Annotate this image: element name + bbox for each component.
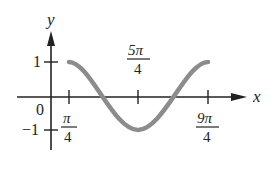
y-tick-label-1: 1 — [33, 53, 41, 70]
x-tick-label-5pi-over-4: 5π 4 — [127, 42, 150, 77]
svg-text:4: 4 — [64, 129, 72, 145]
y-tick-label-neg1: −1 — [22, 121, 39, 138]
svg-text:5π: 5π — [128, 42, 144, 58]
y-axis-label: y — [45, 10, 55, 29]
x-tick-label-9pi-over-4: 9π 4 — [196, 110, 219, 145]
svg-text:π: π — [63, 110, 71, 126]
svg-text:9π: 9π — [197, 110, 213, 126]
svg-text:4: 4 — [134, 61, 142, 77]
x-axis-arrow-icon — [231, 93, 247, 101]
x-tick-label-pi-over-4: π 4 — [61, 110, 77, 145]
origin-label: 0 — [36, 101, 44, 118]
y-axis-arrow-icon — [47, 31, 55, 46]
cosine-graph: y x 0 1 −1 π 4 5π 4 9π 4 — [0, 0, 274, 179]
x-axis-label: x — [252, 87, 261, 106]
svg-text:4: 4 — [203, 129, 211, 145]
